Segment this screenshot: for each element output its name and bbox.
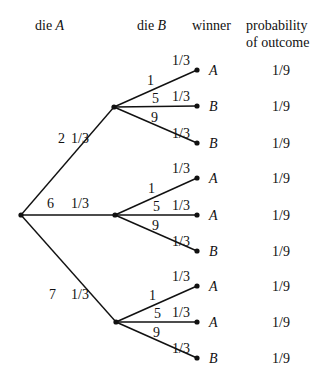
die-a-prob-label: 1/3 — [71, 196, 89, 211]
die-a-value-label: 2 — [58, 131, 65, 146]
die-b-prob-label: 1/3 — [172, 53, 190, 68]
die-b-prob-label: 1/3 — [172, 126, 190, 141]
die-b-prob-label: 1/3 — [172, 234, 190, 249]
winner-label: A — [208, 171, 218, 186]
winner-label: A — [208, 279, 218, 294]
die-a-value-label: 7 — [49, 287, 56, 302]
die-b-prob-label: 1/3 — [172, 341, 190, 356]
die-b-value-label: 5 — [152, 91, 159, 106]
die-b-prob-label: 1/3 — [172, 161, 190, 176]
leaf-node — [194, 319, 199, 324]
edge-die-a-7 — [21, 215, 116, 322]
die-b-value-label: 9 — [151, 110, 158, 125]
header-die-b: die B — [137, 18, 167, 33]
tree-edges — [21, 70, 197, 358]
die-a-value-label: 6 — [47, 196, 54, 211]
die-b-value-label: 5 — [154, 306, 161, 321]
die-a-prob-label: 1/3 — [71, 131, 89, 146]
winner-label: A — [208, 208, 218, 223]
column-headers: die A die B winner probability of outcom… — [35, 18, 309, 50]
die-b-value-label: 1 — [147, 73, 154, 88]
die-b-value-label: 1 — [149, 288, 156, 303]
die-b-value-label: 1 — [148, 181, 155, 196]
outcome-probability: 1/9 — [272, 136, 290, 151]
winner-label: B — [209, 99, 218, 114]
die-b-prob-label: 1/3 — [172, 269, 190, 284]
edge-die-a-2 — [21, 107, 114, 215]
outcome-probability: 1/9 — [272, 208, 290, 223]
outcome-probability: 1/9 — [272, 244, 290, 259]
outcome-probability: 1/9 — [272, 63, 290, 78]
outcome-probability: 1/9 — [272, 279, 290, 294]
die-a-node — [113, 319, 118, 324]
die-b-value-label: 9 — [152, 218, 159, 233]
die-b-value-label: 5 — [153, 199, 160, 214]
leaf-node — [194, 283, 199, 288]
edge-die-b-5 — [114, 106, 197, 107]
leaf-node — [194, 355, 199, 360]
winner-label: B — [209, 244, 218, 259]
tree-labels: 21/311/3A1/951/3B1/991/3B1/961/311/3A1/9… — [47, 53, 290, 366]
die-a-node — [112, 212, 117, 217]
leaf-node — [194, 67, 199, 72]
die-a-node — [111, 104, 116, 109]
header-die-a: die A — [35, 18, 65, 33]
winner-label: A — [208, 315, 218, 330]
die-b-prob-label: 1/3 — [172, 305, 190, 320]
die-b-value-label: 9 — [153, 325, 160, 340]
winner-label: B — [209, 136, 218, 151]
header-probability: probability — [246, 18, 307, 33]
header-of-outcome: of outcome — [246, 35, 309, 50]
root-node — [18, 212, 23, 217]
winner-label: A — [208, 63, 218, 78]
die-a-prob-label: 1/3 — [71, 287, 89, 302]
leaf-node — [194, 248, 199, 253]
die-b-prob-label: 1/3 — [172, 198, 190, 213]
outcome-probability: 1/9 — [272, 99, 290, 114]
leaf-node — [194, 212, 199, 217]
leaf-node — [194, 175, 199, 180]
header-winner: winner — [192, 18, 231, 33]
leaf-node — [194, 103, 199, 108]
die-b-prob-label: 1/3 — [172, 89, 190, 104]
winner-label: B — [209, 351, 218, 366]
outcome-probability: 1/9 — [272, 315, 290, 330]
outcome-probability: 1/9 — [272, 351, 290, 366]
outcome-probability: 1/9 — [272, 171, 290, 186]
probability-tree: die A die B winner probability of outcom… — [0, 0, 319, 384]
leaf-node — [194, 140, 199, 145]
